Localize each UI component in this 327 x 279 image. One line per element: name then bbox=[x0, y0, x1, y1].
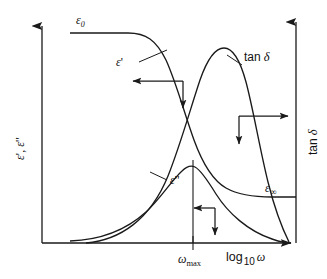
leader-epsilon-prime bbox=[139, 50, 167, 62]
tan-delta-text: tan bbox=[244, 50, 261, 64]
y-left-epsilon-1: ε bbox=[13, 155, 27, 160]
figure-root: ε0 ε' ε'' ε∞ tanδ ωmax log10ω ε', ε'' ta… bbox=[0, 0, 327, 279]
y-left-comma: , bbox=[13, 147, 27, 153]
label-epsilon-infinity: ε∞ bbox=[265, 182, 277, 197]
y-axis-left-label: ε', ε'' bbox=[14, 137, 26, 160]
epsilon-double-prime-superscript: '' bbox=[175, 173, 180, 187]
omega-max-subscript: max bbox=[186, 258, 201, 268]
x-axis-log-text: log bbox=[226, 250, 243, 264]
curve-tan-delta bbox=[86, 48, 289, 243]
leader-tan-delta bbox=[227, 55, 242, 65]
y-left-epsilon-2: ε bbox=[13, 142, 27, 147]
figure-canvas bbox=[0, 0, 327, 279]
y-right-tan-text: tan bbox=[306, 138, 320, 155]
epsilon-zero-subscript: 0 bbox=[81, 20, 85, 29]
label-epsilon-prime: ε' bbox=[116, 56, 123, 68]
label-epsilon-double-prime: ε'' bbox=[170, 174, 180, 186]
label-tan-delta-inline: tanδ bbox=[244, 51, 270, 64]
tan-delta-symbol: δ bbox=[264, 50, 270, 64]
epsilon-prime-superscript: ' bbox=[121, 55, 123, 69]
y-left-double-prime: '' bbox=[13, 137, 27, 142]
x-axis-omega-symbol: ω bbox=[257, 250, 265, 264]
y-right-delta-symbol: δ bbox=[306, 130, 320, 136]
leader-epsilon-double-prime bbox=[150, 172, 167, 180]
curve-epsilon-double-prime bbox=[70, 166, 291, 243]
y-axis-right-label: tanδ bbox=[307, 130, 320, 156]
x-axis-log-subscript: 10 bbox=[244, 256, 255, 267]
x-axis-label: log10ω bbox=[226, 251, 265, 267]
label-epsilon-zero: ε0 bbox=[76, 14, 85, 29]
label-omega-max: ωmax bbox=[178, 253, 201, 268]
y-left-prime: ' bbox=[13, 153, 27, 155]
epsilon-infinity-subscript: ∞ bbox=[270, 187, 276, 197]
